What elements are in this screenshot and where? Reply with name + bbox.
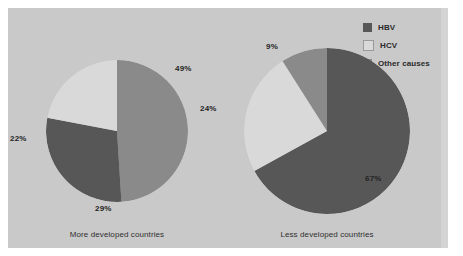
pie-chart-less-developed (244, 48, 410, 214)
pie-caption-less-developed: Less developed countries (244, 230, 410, 239)
pie-label-less-developed-hcv: 24% (200, 104, 217, 113)
legend-label-hbv: HBV (378, 23, 395, 32)
pie-label-more-developed-hbv: 29% (95, 204, 112, 213)
pie-slice-hbv (46, 118, 121, 202)
pie-caption-more-developed: More developed countries (46, 230, 188, 239)
figure-panel: HBV HCV Other causes 49% 29% 22% More de… (8, 8, 448, 248)
legend-swatch-hbv-icon (363, 23, 372, 32)
pie-label-less-developed-hbv: 67% (365, 174, 382, 183)
pie-slices-less-developed (244, 48, 410, 214)
pie-slice-other-causes (117, 60, 188, 202)
pie-label-more-developed-other-causes: 49% (175, 64, 192, 73)
legend-item-hbv: HBV (363, 20, 448, 35)
pie-label-less-developed-other-causes: 9% (266, 42, 278, 51)
pie-label-more-developed-hcv: 22% (10, 134, 27, 143)
pie-slices-more-developed (46, 60, 188, 202)
pie-chart-more-developed (46, 60, 188, 202)
